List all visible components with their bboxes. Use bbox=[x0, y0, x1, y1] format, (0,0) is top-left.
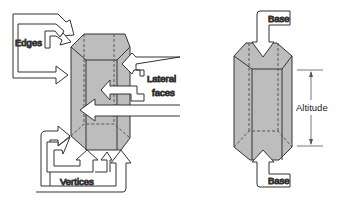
base-top-label: Base bbox=[268, 13, 290, 24]
edges-label: Edges bbox=[15, 37, 42, 48]
vertices-label: Vertices bbox=[60, 176, 94, 187]
lateral-label-line2: faces bbox=[152, 87, 175, 98]
right-prism-body bbox=[234, 43, 292, 160]
right-prism bbox=[234, 43, 292, 160]
altitude-label: Altitude bbox=[296, 102, 328, 113]
edges-arrow-upper bbox=[13, 14, 74, 84]
edges-callout: Edges bbox=[13, 14, 74, 84]
prism-diagram: Edges Lateral faces Vertices Base Base bbox=[0, 0, 345, 200]
lateral-label-line1: Lateral bbox=[147, 73, 176, 84]
base-bottom-label: Base bbox=[268, 175, 290, 186]
vertices-arrow-inner-mid bbox=[95, 152, 112, 172]
